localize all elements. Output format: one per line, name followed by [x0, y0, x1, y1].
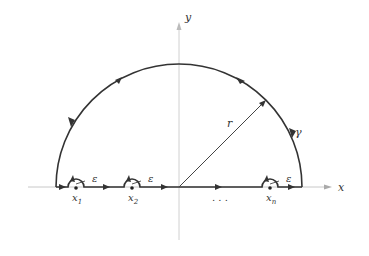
x1-label: x1 — [72, 192, 82, 206]
ellipsis: . . . — [212, 192, 228, 203]
xn-label: xn — [266, 192, 277, 206]
contour-diagram: y x r γ ε ε ε x1 x2 xn . . . — [0, 0, 369, 256]
arc-arrow-icon — [115, 77, 122, 84]
axis-arrow-icon — [215, 184, 222, 190]
epsilon-label-2: ε — [148, 173, 153, 184]
y-axis-label: y — [184, 11, 192, 24]
axis-arrow-icon — [161, 184, 168, 190]
radius-line — [179, 100, 266, 187]
radius-label: r — [227, 117, 233, 130]
x-axis-label: x — [338, 181, 345, 194]
point-xn — [268, 186, 272, 190]
axis-arrow-icon — [288, 184, 295, 190]
point-x1 — [74, 186, 78, 190]
epsilon-label-1: ε — [92, 173, 97, 184]
y-axis-arrow-icon — [177, 22, 182, 30]
epsilon-label-n: ε — [286, 173, 291, 184]
x-axis-arrow-icon — [324, 185, 332, 190]
x2-label: x2 — [128, 192, 139, 206]
point-x2 — [130, 186, 134, 190]
contour-label: γ — [295, 126, 302, 139]
axis-arrow-icon — [59, 184, 66, 190]
axis-arrow-icon — [103, 184, 110, 190]
